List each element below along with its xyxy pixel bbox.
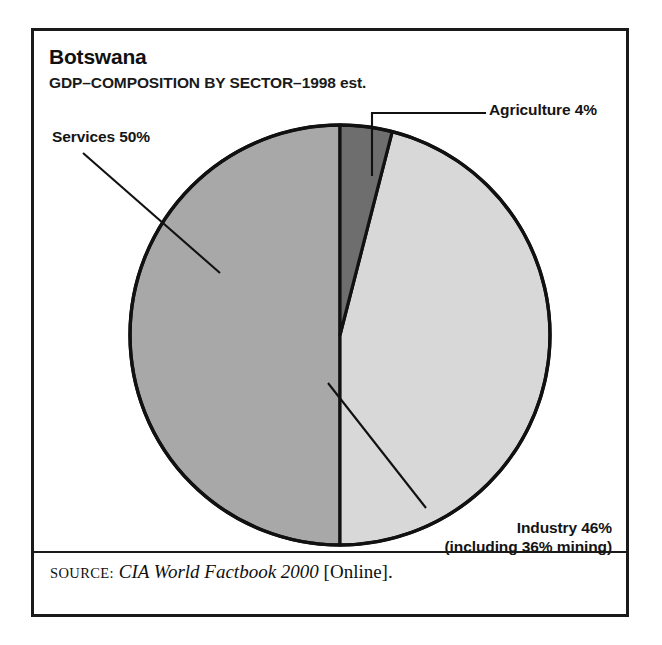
source-divider xyxy=(34,551,626,553)
pie-label-services: Services 50% xyxy=(52,127,150,146)
source-note: SOURCE: CIA World Factbook 2000 [Online]… xyxy=(50,561,393,583)
pie-label-agriculture: Agriculture 4% xyxy=(489,100,597,119)
gdp-composition-pie-figure: Botswana GDP–COMPOSITION BY SECTOR–1998 … xyxy=(0,0,662,645)
source-availability-note: [Online]. xyxy=(324,561,393,582)
pie-label-industry-line1: Industry 46% xyxy=(517,519,612,536)
source-prefix-label: SOURCE: xyxy=(50,565,114,581)
source-publication-title: CIA World Factbook 2000 xyxy=(119,561,319,582)
pie-label-industry-line2: (including 36% mining) xyxy=(416,537,612,556)
pie-slice-services[interactable] xyxy=(130,125,340,545)
